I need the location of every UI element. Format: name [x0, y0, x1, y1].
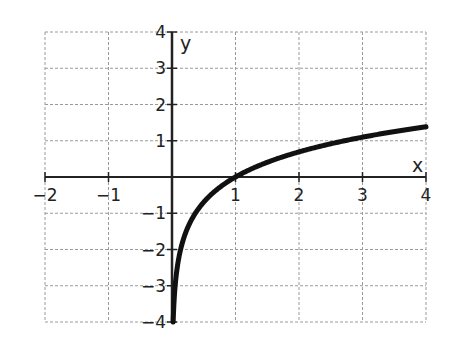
x-axis-label: x — [412, 154, 423, 176]
function-graph: −2−112344321−1−2−3−4 x y — [0, 0, 451, 341]
curve-line — [173, 127, 426, 322]
y-tick-label: 4 — [155, 22, 166, 42]
x-tick-label: −1 — [96, 185, 121, 205]
x-tick-label: −2 — [32, 185, 57, 205]
y-tick-label: −2 — [141, 240, 166, 260]
y-tick-label: −4 — [141, 312, 166, 332]
x-tick-label: 2 — [294, 185, 305, 205]
y-tick-label: −3 — [141, 276, 166, 296]
x-tick-label: 3 — [357, 185, 368, 205]
y-tick-label: 3 — [155, 58, 166, 78]
x-tick-label: 1 — [230, 185, 241, 205]
y-axis-label: y — [180, 32, 191, 54]
y-tick-label: 1 — [155, 131, 166, 151]
y-tick-label: −1 — [141, 203, 166, 223]
y-tick-label: 2 — [155, 95, 166, 115]
x-tick-label: 4 — [421, 185, 432, 205]
